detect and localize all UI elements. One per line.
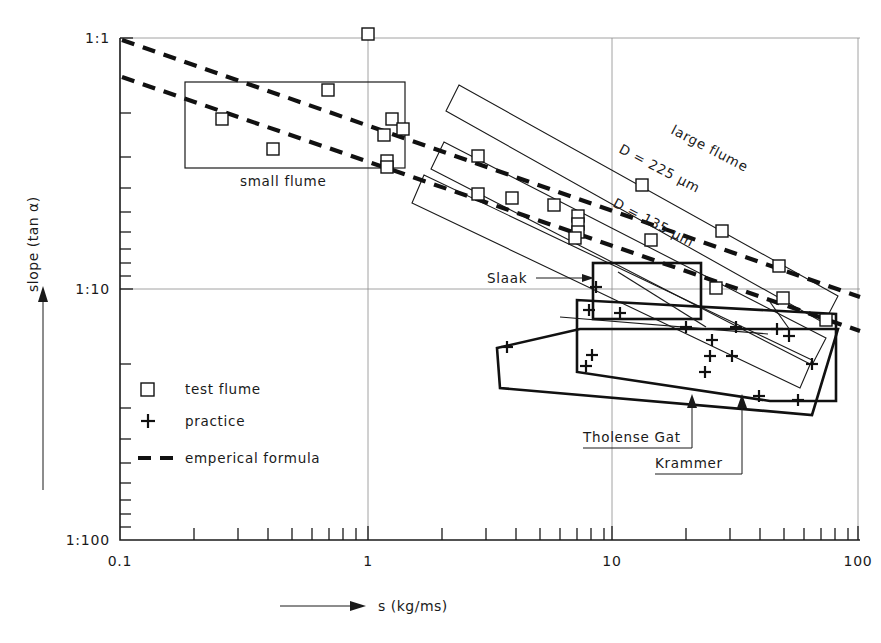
krammer-label: Krammer [655, 455, 723, 471]
legend-label-test-flume: test flume [185, 381, 261, 397]
y-tick-label-1to1: 1:1 [85, 30, 110, 46]
background [0, 0, 881, 643]
data-point-square [548, 199, 560, 211]
tholense-gat-label: Tholense Gat [582, 429, 681, 445]
data-point-square [378, 129, 390, 141]
y-tick-label-1to10: 1:10 [75, 281, 110, 297]
slaak-label: Slaak [487, 270, 527, 286]
data-point-square [773, 260, 785, 272]
x-tick-label-0-1: 0.1 [108, 553, 133, 569]
small-flume-label: small flume [240, 173, 326, 189]
x-axis-title: s (kg/ms) [378, 598, 448, 614]
data-point-square [820, 314, 832, 326]
y-tick-label-1to100: 1:100 [66, 532, 110, 548]
data-point-square [506, 192, 518, 204]
data-point-square [569, 232, 581, 244]
legend-label-empirical-formula: emperical formula [185, 450, 320, 466]
data-point-square [472, 150, 484, 162]
data-point-square [472, 188, 484, 200]
data-point-square [216, 113, 228, 125]
data-point-square [777, 292, 789, 304]
data-point-square [645, 234, 657, 246]
data-point-square [386, 113, 398, 125]
y-axis-title: slope (tan α) [25, 196, 41, 292]
chart-canvas: 1:1 1:10 1:100 0.1 1 10 100 slope (tan α… [0, 0, 881, 643]
legend-label-practice: practice [185, 413, 245, 429]
data-point-square [322, 84, 334, 96]
data-point-square [362, 28, 374, 40]
x-tick-label-1: 1 [363, 553, 373, 569]
data-point-square [267, 143, 279, 155]
data-point-square [710, 282, 722, 294]
x-tick-label-100: 100 [843, 553, 872, 569]
data-point-square [381, 161, 393, 173]
data-point-square [397, 123, 409, 135]
data-point-square [716, 225, 728, 237]
data-point-square [636, 179, 648, 191]
legend-square-icon [141, 383, 154, 396]
slope-vs-sediment-transport-chart: 1:1 1:10 1:100 0.1 1 10 100 slope (tan α… [0, 0, 881, 643]
x-tick-label-10: 10 [602, 553, 621, 569]
